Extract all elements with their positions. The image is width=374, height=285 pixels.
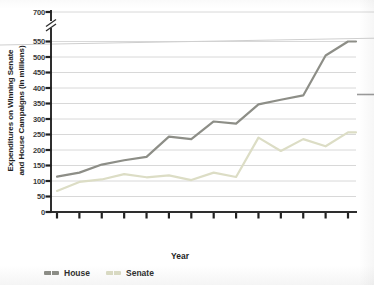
legend-label-senate: Senate <box>126 268 154 278</box>
x-axis-title: Year <box>150 251 210 261</box>
legend-label-house: House <box>64 268 90 278</box>
senate-line <box>57 132 356 191</box>
legend: House Senate <box>44 266 304 280</box>
house-line-swatch-icon <box>44 271 59 274</box>
y-axis-title-line1: Expenditures on Winning Senate <box>6 8 17 214</box>
y-axis-title-line2: and House Campaigns (in millions) <box>16 8 27 214</box>
figure-campaign-expenditures-chart: 050100150200250300350400450500550700 198… <box>0 0 374 285</box>
line-chart-canvas <box>0 0 374 285</box>
legend-item-house: House <box>44 266 90 280</box>
senate-line-swatch-icon <box>106 271 121 274</box>
legend-item-senate: Senate <box>106 266 154 280</box>
house-line <box>57 42 356 177</box>
y-axis-title: Expenditures on Winning Senate and House… <box>6 8 27 214</box>
